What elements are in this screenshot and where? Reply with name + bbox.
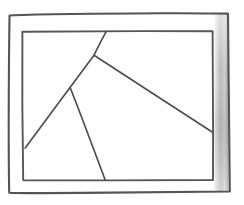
sketch-drawing bbox=[0, 0, 244, 205]
sketch-canvas bbox=[0, 0, 244, 205]
right-shade-band bbox=[215, 14, 229, 192]
